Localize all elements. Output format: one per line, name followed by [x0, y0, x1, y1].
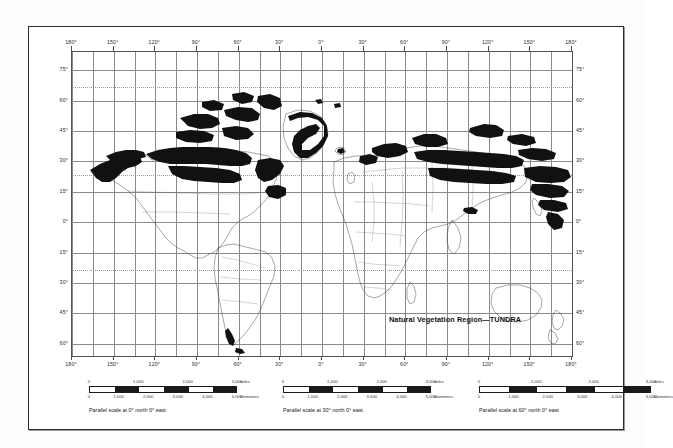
longitude-tick-label: 120° — [482, 39, 494, 45]
scale-tick-label: 1,000 — [113, 394, 123, 399]
scale-tick-label: 2,000 — [588, 379, 598, 384]
latitude-tick-label: 30° — [576, 157, 584, 163]
longitude-tick-label: 30° — [275, 39, 283, 45]
scale-miles-ticks: 01,0002,0003,000miles — [479, 379, 651, 386]
longitude-tick-label: 150° — [524, 39, 536, 45]
latitude-tick-label: 30° — [53, 279, 68, 285]
scale-tick-label: 2,000 — [143, 394, 153, 399]
scale-tick-label: 2,000 — [376, 379, 386, 384]
scale-unit-kilometers: kilometers — [240, 394, 259, 399]
scale-tick-label: 4,000 — [396, 394, 406, 399]
scale-tick-label: 3,000 — [173, 394, 183, 399]
longitude-tick-label: 120° — [149, 361, 161, 367]
scale-bar: 01,0002,0003,000miles01,0002,0003,0004,0… — [479, 379, 651, 413]
scale-tick-label: 1,000 — [133, 379, 143, 384]
latitude-tick-label: 0° — [576, 218, 581, 224]
page-sheet: 180°150°120°90°60°30°0°30°60°90°120°150°… — [28, 26, 624, 430]
latitude-tick-label: 15° — [576, 188, 584, 194]
longitude-tick-label: 120° — [482, 361, 494, 367]
longitude-tick-label: 90° — [442, 39, 450, 45]
latitude-tick-label: 45° — [576, 309, 584, 315]
scale-unit-miles: miles — [240, 379, 250, 384]
scale-unit-miles: miles — [434, 379, 444, 384]
scale-tick-label: 1,000 — [531, 379, 541, 384]
latitude-tick-label: 45° — [53, 127, 68, 133]
longitude-tick-label: 150° — [107, 39, 119, 45]
latitude-tick-label: 15° — [576, 249, 584, 255]
scale-km-ticks: 01,0002,0003,0004,0005,000kilometers — [283, 394, 431, 401]
graticule-meridian — [572, 52, 573, 356]
latitude-tick-label: 30° — [576, 279, 584, 285]
scale-caption: Parallel scale at 0° north 0° east — [89, 407, 237, 413]
scale-km-ticks: 01,0002,0003,0004,0005,000kilometers — [479, 394, 651, 401]
scale-caption: Parallel scale at 60° north 0° east — [479, 407, 651, 413]
scale-miles-ticks: 01,0002,0003,000miles — [283, 379, 431, 386]
longitude-tick-label: 60° — [400, 361, 408, 367]
scale-tick-label: 0 — [88, 394, 90, 399]
latitude-tick-label: 0° — [53, 218, 68, 224]
latitude-tick-label: 15° — [53, 249, 68, 255]
longitude-tick-label: 180° — [65, 39, 77, 45]
latitude-tick-label: 45° — [53, 309, 68, 315]
scale-tick-label: 0 — [478, 394, 480, 399]
scale-bar-graphic — [479, 386, 651, 393]
longitude-tick-label: 180° — [65, 361, 77, 367]
longitude-tick-label: 60° — [233, 361, 241, 367]
longitude-tick-label: 90° — [192, 361, 200, 367]
scale-caption: Parallel scale at 30° north 0° east — [283, 407, 431, 413]
scale-tick-label: 0 — [88, 379, 90, 384]
map-frame — [71, 51, 573, 357]
scale-miles-ticks: 01,0002,0003,000miles — [89, 379, 237, 386]
scale-unit-kilometers: kilometers — [434, 394, 453, 399]
scale-tick-label: 2,000 — [337, 394, 347, 399]
world-map: 180°150°120°90°60°30°0°30°60°90°120°150°… — [71, 39, 583, 369]
latitude-tick-label: 60° — [576, 340, 584, 346]
map-geometry — [72, 52, 572, 356]
scale-tick-label: 1,000 — [327, 379, 337, 384]
scale-tick-label: 0 — [282, 394, 284, 399]
longitude-tick-label: 180° — [565, 361, 577, 367]
longitude-tick-label: 90° — [442, 361, 450, 367]
scale-tick-label: 2,000 — [182, 379, 192, 384]
longitude-tick-label: 150° — [524, 361, 536, 367]
scale-bar-graphic — [283, 386, 431, 393]
longitude-tick-label: 30° — [358, 361, 366, 367]
scale-tick-label: 4,000 — [611, 394, 621, 399]
scale-bars: 01,0002,0003,000miles01,0002,0003,0004,0… — [71, 379, 631, 423]
scale-tick-label: 0 — [478, 379, 480, 384]
latitude-tick-label: 60° — [53, 340, 68, 346]
latitude-tick-label: 45° — [576, 127, 584, 133]
latitude-tick-label: 30° — [53, 157, 68, 163]
scale-unit-kilometers: kilometers — [654, 394, 673, 399]
latitude-tick-label: 75° — [576, 66, 584, 72]
latitude-tick-label: 60° — [53, 97, 68, 103]
scale-tick-label: 3,000 — [577, 394, 587, 399]
longitude-tick-label: 0° — [318, 361, 323, 367]
scale-bar: 01,0002,0003,000miles01,0002,0003,0004,0… — [89, 379, 237, 413]
scale-tick-label: 1,000 — [508, 394, 518, 399]
scale-tick-label: 0 — [282, 379, 284, 384]
scale-tick-label: 4,000 — [202, 394, 212, 399]
scale-unit-miles: miles — [654, 379, 664, 384]
latitude-tick-label: 60° — [576, 97, 584, 103]
scale-tick-label: 1,000 — [307, 394, 317, 399]
latitude-tick-label: 75° — [53, 66, 68, 72]
longitude-tick-label: 30° — [358, 39, 366, 45]
longitude-tick-label: 60° — [400, 39, 408, 45]
longitude-tick-label: 30° — [275, 361, 283, 367]
scale-bar-graphic — [89, 386, 237, 393]
longitude-tick-label: 120° — [149, 39, 161, 45]
longitude-tick-label: 150° — [107, 361, 119, 367]
longitude-tick-label: 90° — [192, 39, 200, 45]
longitude-tick-label: 60° — [233, 39, 241, 45]
latitude-tick-label: 15° — [53, 188, 68, 194]
scale-tick-label: 3,000 — [367, 394, 377, 399]
map-title: Natural Vegetation Region—TUNDRA — [389, 315, 521, 324]
longitude-tick-label: 180° — [565, 39, 577, 45]
scale-tick-label: 2,000 — [543, 394, 553, 399]
scale-km-ticks: 01,0002,0003,0004,0005,000kilometers — [89, 394, 237, 401]
longitude-tick-label: 0° — [318, 39, 323, 45]
scale-bar: 01,0002,0003,000miles01,0002,0003,0004,0… — [283, 379, 431, 413]
